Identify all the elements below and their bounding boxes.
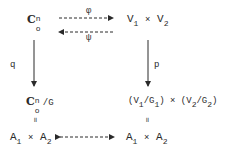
equals-right: ॥ bbox=[145, 117, 149, 124]
phi-label: φ bbox=[86, 7, 91, 16]
node-top-left: Cno bbox=[27, 14, 44, 26]
psi-label: ψ bbox=[86, 34, 91, 43]
p-label: p bbox=[154, 61, 159, 70]
node-top-right: V1 × V2 bbox=[127, 14, 168, 25]
q-label: q bbox=[10, 61, 15, 70]
equals-left: ॥ bbox=[33, 117, 37, 124]
node-mid-left: Cno/G bbox=[26, 96, 54, 108]
node-mid-right: (V1/G1) × (V2/G2) bbox=[128, 97, 218, 106]
node-bottom-left: A1 × A2 bbox=[10, 132, 51, 143]
node-bottom-right: A1 × A2 bbox=[126, 132, 167, 143]
